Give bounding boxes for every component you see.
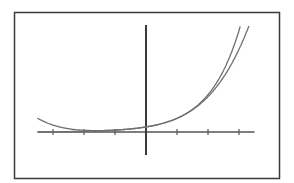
chart-canvas <box>0 0 294 183</box>
